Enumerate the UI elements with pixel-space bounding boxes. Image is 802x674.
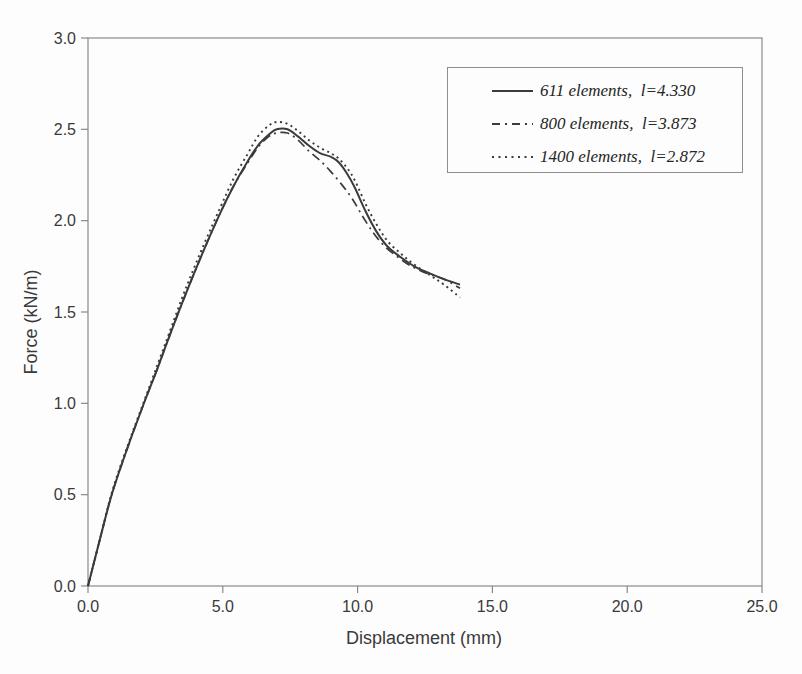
- legend: 611 elements, l=4.330 800 elements, l=3.…: [447, 67, 743, 173]
- x-tick-label: 5.0: [212, 598, 234, 615]
- series-line-dotted: [88, 122, 460, 586]
- x-tick-label: 20.0: [612, 598, 643, 615]
- x-tick-label: 10.0: [342, 598, 373, 615]
- legend-item-611: 611 elements, l=4.330: [492, 74, 742, 107]
- x-tick-label: 0.0: [77, 598, 99, 615]
- series-line-dash-dot: [88, 132, 460, 586]
- legend-item-label: 800 elements, l=3.873: [540, 114, 696, 134]
- y-tick-label: 1.0: [54, 395, 76, 412]
- y-tick-label: 1.5: [54, 304, 76, 321]
- y-tick-label: 2.0: [54, 212, 76, 229]
- series-line-solid: [88, 129, 460, 586]
- legend-item-label: 1400 elements, l=2.872: [540, 147, 705, 167]
- legend-item-800: 800 elements, l=3.873: [492, 107, 742, 140]
- x-tick-label: 15.0: [477, 598, 508, 615]
- y-tick-label: 0.0: [54, 578, 76, 595]
- x-axis-title: Displacement (mm): [346, 628, 502, 649]
- y-axis-title: Force (kN/m): [21, 270, 42, 375]
- y-tick-label: 3.0: [54, 30, 76, 47]
- legend-item-1400: 1400 elements, l=2.872: [492, 140, 742, 173]
- legend-item-label: 611 elements, l=4.330: [540, 81, 695, 101]
- x-tick-label: 25.0: [746, 598, 777, 615]
- y-tick-label: 2.5: [54, 121, 76, 138]
- force-displacement-figure: 0.05.010.015.020.025.00.00.51.01.52.02.5…: [0, 0, 802, 674]
- solid-line-swatch-icon: [492, 86, 533, 96]
- dotted-line-swatch-icon: [492, 152, 533, 162]
- y-tick-label: 0.5: [54, 486, 76, 503]
- dash-dot-line-swatch-icon: [492, 119, 533, 129]
